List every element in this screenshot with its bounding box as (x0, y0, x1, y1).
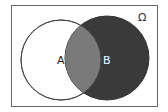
universe-label: Ω (138, 11, 146, 24)
venn-diagram: A B Ω (0, 0, 168, 112)
set-a-label: A (57, 54, 65, 67)
set-b-label: B (103, 54, 111, 67)
